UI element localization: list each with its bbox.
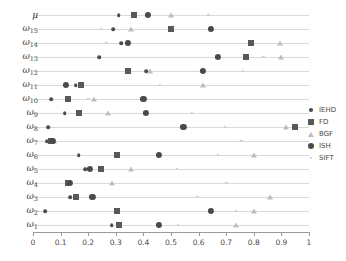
data-point-ish (86, 166, 92, 172)
legend-item-iehd[interactable]: IEHD (306, 104, 336, 116)
data-point-bgf (91, 97, 97, 102)
x-axis-tick (88, 232, 89, 236)
legend-label: BGF (319, 130, 333, 138)
data-point-ish (155, 152, 161, 158)
x-axis-tick-label: 0.9 (275, 238, 287, 247)
y-axis-label: ω3 (27, 191, 38, 204)
data-point-ish (63, 82, 69, 88)
data-point-bgf (267, 195, 273, 200)
data-point-fd (73, 194, 79, 200)
data-point-fd (76, 110, 82, 116)
data-point-bgf (168, 13, 174, 18)
data-point-bgf (233, 223, 239, 228)
data-point-fd (131, 12, 137, 18)
data-point-ish (180, 124, 186, 130)
data-point-fd (292, 124, 298, 130)
data-point-fd (125, 68, 131, 74)
legend-item-sift[interactable]: SIFT (306, 152, 336, 164)
gridline (33, 113, 309, 114)
data-point-bgf (105, 111, 111, 116)
legend-label: IEHD (319, 106, 336, 114)
legend-label: ISH (319, 142, 331, 150)
y-axis-label: ω9 (27, 107, 38, 120)
data-point-bgf (128, 27, 134, 32)
y-axis-label: ω15 (22, 23, 38, 36)
y-axis-label: ω5 (27, 163, 38, 176)
y-axis-label: ω2 (27, 205, 38, 218)
legend-item-ish[interactable]: ISH (306, 140, 336, 152)
data-point-fd (114, 152, 120, 158)
x-axis-tick (143, 232, 144, 236)
y-axis-label: ω12 (22, 65, 38, 78)
legend-label: FD (319, 118, 328, 126)
data-point-bgf (251, 209, 257, 214)
x-axis-tick-label: 0.2 (82, 238, 94, 247)
y-axis-label: ω4 (27, 177, 38, 190)
data-point-iehd (117, 13, 121, 17)
x-axis-tick (281, 232, 282, 236)
data-point-iehd (68, 195, 72, 199)
x-axis-tick-label: 0.8 (248, 238, 260, 247)
data-point-iehd (111, 27, 115, 31)
x-axis-tick-label: 0.6 (193, 238, 205, 247)
gridline (33, 57, 309, 58)
data-point-iehd (44, 209, 48, 213)
x-axis-tick-label: 0.1 (55, 238, 67, 247)
x-axis-tick (61, 232, 62, 236)
x-axis-tick-label: 0.3 (110, 238, 122, 247)
data-point-ish (89, 194, 95, 200)
gridline (33, 169, 309, 170)
y-axis-label: ω10 (22, 93, 38, 106)
legend-marker-icon (306, 143, 316, 149)
y-axis-label: ω7 (27, 135, 38, 148)
x-axis-tick (116, 232, 117, 236)
data-point-ish (208, 208, 214, 214)
data-point-ish (200, 68, 206, 74)
legend-marker-icon (306, 119, 316, 125)
legend-marker-icon (306, 157, 316, 159)
gridline (33, 155, 309, 156)
gridline (33, 211, 309, 212)
data-point-iehd (110, 223, 114, 227)
data-point-ish (144, 12, 150, 18)
gridline (33, 43, 309, 44)
data-point-ish (143, 110, 149, 116)
data-point-iehd (63, 111, 67, 115)
x-axis-tick (254, 232, 255, 236)
data-point-iehd (97, 55, 101, 59)
x-axis-tick-label: 0 (31, 238, 36, 247)
y-axis-label: μ (32, 10, 38, 20)
gridline (33, 127, 309, 128)
x-axis-tick-label: 0.7 (220, 238, 232, 247)
data-point-ish (140, 96, 146, 102)
x-axis-tick (199, 232, 200, 236)
data-point-ish (67, 180, 73, 186)
legend-label: SIFT (319, 154, 334, 162)
data-point-bgf (251, 153, 257, 158)
data-point-fd (98, 166, 104, 172)
data-point-ish (155, 222, 161, 228)
gridline (33, 141, 309, 142)
legend-marker-icon (306, 132, 316, 137)
data-point-bgf (278, 55, 284, 60)
legend-marker-icon (306, 108, 316, 112)
legend-item-bgf[interactable]: BGF (306, 128, 336, 140)
y-axis-label: ω1 (27, 219, 38, 232)
data-point-fd (78, 82, 84, 88)
x-axis-tick (33, 232, 34, 236)
data-point-bgf (109, 181, 115, 186)
x-axis-tick-label: 0.5 (165, 238, 177, 247)
chart-legend: IEHDFDBGFISHSIFT (306, 104, 336, 164)
y-axis-label: ω14 (22, 37, 38, 50)
legend-item-fd[interactable]: FD (306, 116, 336, 128)
plot-area (33, 8, 309, 232)
data-point-ish (215, 54, 221, 60)
x-axis-tick (309, 232, 310, 236)
y-axis-label: ω6 (27, 149, 38, 162)
gridline (33, 71, 309, 72)
data-point-fd (243, 54, 249, 60)
data-point-fd (116, 222, 122, 228)
y-axis-label: ω11 (22, 79, 38, 92)
gridline (33, 225, 309, 226)
y-axis-label: ω13 (22, 51, 38, 64)
